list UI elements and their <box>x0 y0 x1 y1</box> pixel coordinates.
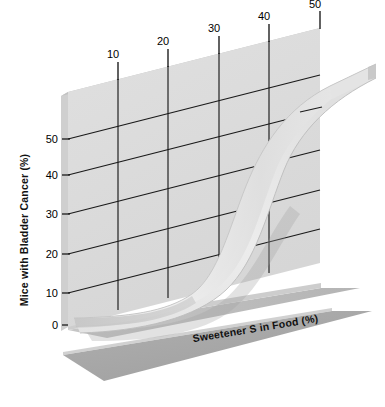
y-tick-label-10: 10 <box>46 287 58 299</box>
chart-figure: 10 20 30 40 50 50 40 30 20 10 0 Mice wit… <box>0 0 385 407</box>
y-axis-tick-labels: 50 40 30 20 10 0 <box>46 133 58 331</box>
x-tick-label-50: 50 <box>309 0 321 10</box>
y-tick-label-30: 30 <box>46 208 58 220</box>
y-axis-title: Mice with Bladder Cancer (%) <box>18 154 30 307</box>
x-tick-label-30: 30 <box>208 22 220 34</box>
chart-svg: 10 20 30 40 50 50 40 30 20 10 0 Mice wit… <box>0 0 385 407</box>
x-tick-label-40: 40 <box>258 10 270 22</box>
x-tick-label-20: 20 <box>157 35 169 47</box>
y-tick-label-50: 50 <box>46 133 58 145</box>
y-tick-label-40: 40 <box>46 169 58 181</box>
x-tick-label-10: 10 <box>107 48 119 60</box>
y-tick-label-20: 20 <box>46 248 58 260</box>
y-tick-label-0: 0 <box>52 319 58 331</box>
back-wall-panel <box>61 28 320 331</box>
